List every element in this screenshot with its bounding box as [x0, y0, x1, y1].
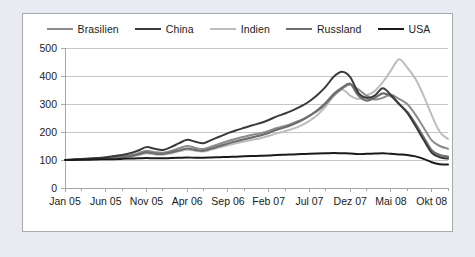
- y-tick-label: 100: [39, 154, 57, 166]
- legend-item-brasilien[interactable]: Brasilien: [47, 23, 119, 35]
- data-series-group: [65, 59, 448, 164]
- series-line-china: [65, 72, 448, 160]
- x-tick-label: Feb 07: [252, 195, 285, 207]
- x-tick-label: Sep 06: [211, 195, 244, 207]
- legend-item-label: Brasilien: [78, 23, 119, 35]
- y-tick-label: 0: [51, 182, 57, 194]
- legend-item-label: China: [166, 23, 194, 35]
- plot-area: 0100200300400500 Jan 05Jun 05Nov 05Apr 0…: [23, 40, 454, 233]
- legend-line-icon: [135, 28, 161, 30]
- legend-line-icon: [378, 28, 404, 30]
- x-tick-label: Dez 07: [334, 195, 367, 207]
- y-tick-label: 200: [39, 126, 57, 138]
- x-tick-label: Jan 05: [49, 195, 81, 207]
- legend-item-label: USA: [409, 23, 431, 35]
- x-tick-label: Okt 08: [416, 195, 447, 207]
- y-tick-label: 400: [39, 70, 57, 82]
- x-tick-label: Nov 05: [130, 195, 163, 207]
- x-tick-label: Jun 05: [90, 195, 122, 207]
- chart-legend: BrasilienChinaIndienRusslandUSA: [23, 18, 454, 40]
- line-chart-svg: 0100200300400500 Jan 05Jun 05Nov 05Apr 0…: [23, 40, 454, 233]
- legend-item-indien[interactable]: Indien: [210, 23, 270, 35]
- series-line-indien: [65, 59, 448, 160]
- x-axis-ticks-group: Jan 05Jun 05Nov 05Apr 06Sep 06Feb 07Jul …: [49, 188, 448, 207]
- y-tick-label: 300: [39, 98, 57, 110]
- legend-item-china[interactable]: China: [135, 23, 194, 35]
- chart-screenshot: BrasilienChinaIndienRusslandUSA 01002003…: [0, 0, 475, 257]
- legend-line-icon: [286, 28, 312, 30]
- legend-line-icon: [210, 28, 236, 30]
- x-tick-label: Jul 07: [295, 195, 323, 207]
- y-tick-label: 500: [39, 42, 57, 54]
- x-tick-label: Mai 08: [375, 195, 407, 207]
- legend-item-usa[interactable]: USA: [378, 23, 431, 35]
- legend-item-label: Indien: [241, 23, 270, 35]
- x-tick-label: Apr 06: [172, 195, 203, 207]
- gridlines-group: [65, 48, 448, 188]
- legend-item-label: Russland: [317, 23, 362, 35]
- chart-panel: BrasilienChinaIndienRusslandUSA 01002003…: [22, 13, 453, 232]
- legend-item-russland[interactable]: Russland: [286, 23, 362, 35]
- legend-line-icon: [47, 28, 73, 30]
- y-axis-ticks-group: 0100200300400500: [39, 42, 65, 194]
